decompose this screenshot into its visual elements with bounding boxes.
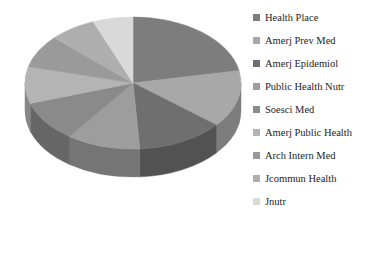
- legend-item[interactable]: Health Place: [250, 6, 371, 29]
- legend-item[interactable]: Amerj Prev Med: [250, 29, 371, 52]
- legend-swatch-icon: [253, 106, 260, 113]
- legend-swatch-icon: [253, 152, 260, 159]
- legend-item[interactable]: Amerj Public Health: [250, 121, 371, 144]
- pie-3d-svg: [0, 0, 250, 210]
- legend-swatch-icon: [253, 60, 260, 67]
- legend-item-label: Health Place: [265, 12, 318, 23]
- legend-item-label: Soesci Med: [265, 104, 314, 115]
- legend-item-label: Jcommun Health: [265, 173, 336, 184]
- legend-item-label: Amerj Public Health: [265, 127, 352, 138]
- legend-item-label: Arch Intern Med: [265, 150, 336, 161]
- pie-chart-figure: Health PlaceAmerj Prev MedAmerj Epidemio…: [0, 0, 371, 259]
- legend-item[interactable]: Jcommun Health: [250, 167, 371, 190]
- legend-item[interactable]: Amerj Epidemiol: [250, 52, 371, 75]
- legend-swatch-icon: [253, 83, 260, 90]
- legend-swatch-icon: [253, 129, 260, 136]
- legend-item-label: Public Health Nutr: [265, 81, 344, 92]
- legend-item-label: Amerj Prev Med: [265, 35, 336, 46]
- pie-chart-graphic: [0, 0, 250, 210]
- legend-item[interactable]: Arch Intern Med: [250, 144, 371, 167]
- legend-swatch-icon: [253, 175, 260, 182]
- legend-swatch-icon: [253, 14, 260, 21]
- legend-swatch-icon: [253, 37, 260, 44]
- chart-legend: Health PlaceAmerj Prev MedAmerj Epidemio…: [250, 6, 371, 213]
- legend-swatch-icon: [253, 198, 260, 205]
- legend-item[interactable]: Jnutr: [250, 190, 371, 213]
- legend-item-label: Jnutr: [265, 196, 286, 207]
- legend-item[interactable]: Public Health Nutr: [250, 75, 371, 98]
- legend-item-label: Amerj Epidemiol: [265, 58, 338, 69]
- legend-item[interactable]: Soesci Med: [250, 98, 371, 121]
